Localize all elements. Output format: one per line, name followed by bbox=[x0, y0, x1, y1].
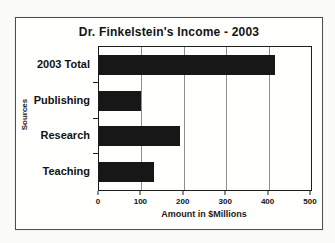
x-tick-label: 100 bbox=[134, 197, 147, 206]
chart-title: Dr. Finkelstein's Income - 2003 bbox=[16, 25, 322, 39]
bar-research bbox=[99, 126, 180, 146]
category-label: 2003 Total bbox=[37, 58, 90, 70]
x-tick-label: 300 bbox=[219, 197, 232, 206]
x-tick-label: 200 bbox=[176, 197, 189, 206]
x-tick-label: 0 bbox=[96, 197, 100, 206]
x-tick-mark bbox=[98, 191, 99, 195]
chart-image: Dr. Finkelstein's Income - 2003 Sources … bbox=[0, 0, 335, 243]
category-label: Publishing bbox=[34, 94, 90, 106]
x-axis-title: Amount in $Millions bbox=[98, 209, 310, 219]
category-label: Research bbox=[40, 129, 90, 141]
x-tick-mark bbox=[225, 191, 226, 195]
x-tick-mark bbox=[267, 191, 268, 195]
category-label: Teaching bbox=[43, 165, 90, 177]
bar-2003-total bbox=[99, 55, 275, 75]
x-tick-mark bbox=[182, 191, 183, 195]
x-tick-label: 400 bbox=[261, 197, 274, 206]
x-tick-mark bbox=[140, 191, 141, 195]
bar-publishing bbox=[99, 91, 141, 111]
x-tick-mark bbox=[310, 191, 311, 195]
plot-area bbox=[98, 46, 312, 191]
category-labels: 2003 TotalPublishingResearchTeaching bbox=[16, 46, 95, 189]
bar-teaching bbox=[99, 162, 154, 182]
chart-frame: Dr. Finkelstein's Income - 2003 Sources … bbox=[15, 17, 323, 230]
x-tick-label: 500 bbox=[303, 197, 316, 206]
